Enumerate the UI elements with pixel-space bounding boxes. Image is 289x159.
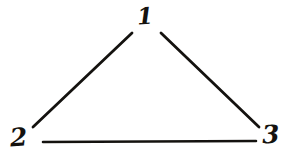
vertex-label-3: 3	[261, 122, 280, 148]
diagram-canvas: 1 2 3	[0, 0, 289, 159]
edge-2-3	[43, 141, 256, 142]
edge-1-2	[33, 33, 132, 127]
edge-1-3	[161, 33, 259, 127]
vertex-label-2: 2	[9, 124, 28, 150]
vertex-label-1: 1	[136, 4, 153, 28]
